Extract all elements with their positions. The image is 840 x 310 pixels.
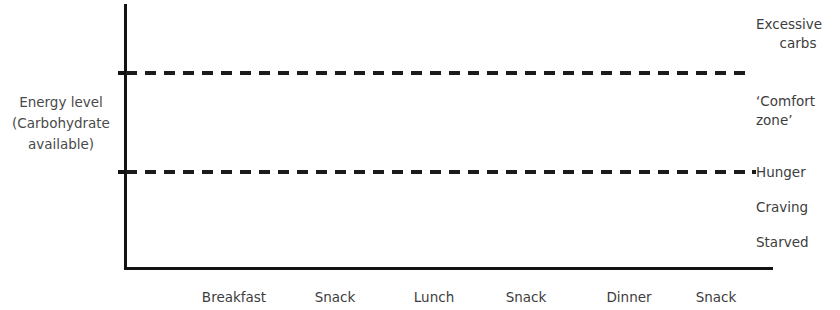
x-label-lunch: Lunch — [414, 289, 454, 305]
y-axis-title-line-1: Energy level — [2, 92, 120, 113]
energy-level-chart: Energy level (Carbohydrate available) Ex… — [0, 0, 840, 310]
upper-threshold-line — [126, 71, 748, 75]
x-label-snack-afternoon: Snack — [506, 289, 547, 305]
x-label-breakfast: Breakfast — [202, 289, 266, 305]
zone-label-excessive-carbs-line-1: Excessive — [756, 15, 840, 34]
x-label-dinner: Dinner — [606, 289, 651, 305]
x-label-snack-evening: Snack — [696, 289, 737, 305]
zone-label-craving: Craving — [756, 199, 840, 217]
y-axis-title-line-2: (Carbohydrate — [2, 113, 120, 134]
y-axis-title: Energy level (Carbohydrate available) — [2, 92, 120, 155]
zone-label-comfort-zone: ‘Comfort zone’ — [756, 92, 840, 130]
zone-label-excessive-carbs: Excessive carbs — [756, 15, 840, 53]
y-axis-line — [124, 4, 127, 270]
zone-label-comfort-zone-line-2: zone’ — [756, 111, 840, 130]
zone-label-excessive-carbs-line-2: carbs — [756, 34, 840, 53]
zone-label-starved: Starved — [756, 234, 840, 252]
y-axis-title-line-3: available) — [2, 134, 120, 155]
x-axis-line — [124, 267, 773, 270]
zone-label-comfort-zone-line-1: ‘Comfort — [756, 92, 840, 111]
lower-threshold-line — [126, 170, 748, 174]
zone-label-hunger: Hunger — [756, 164, 840, 182]
x-label-snack-morning: Snack — [315, 289, 356, 305]
